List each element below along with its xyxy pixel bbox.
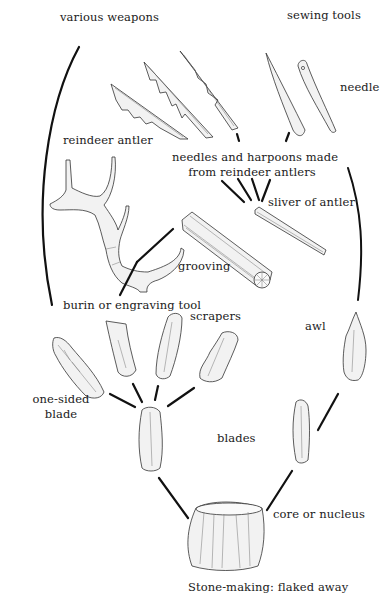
needles-fan-connectors: [222, 179, 270, 202]
core-right-connector: [267, 471, 292, 510]
sewing-connector: [286, 133, 289, 141]
scraper-1-icon: [156, 313, 182, 378]
reindeer-antler-icon: [50, 157, 184, 292]
awl-icon: [343, 312, 366, 381]
right-blade-icon: [293, 400, 310, 463]
barbed-harpoon-icon: [144, 62, 213, 138]
one-sided-blade-icon: [53, 337, 104, 398]
central-blade-icon: [139, 407, 162, 471]
right-arc-connector: [348, 168, 361, 300]
weapons-connector: [237, 134, 239, 141]
label-one-sided-line2: blade: [28, 407, 94, 421]
label-sliver-of-antler: sliver of antler: [268, 195, 355, 209]
label-awl: awl: [305, 319, 326, 333]
label-needle: needle: [340, 80, 379, 94]
scraper-2-icon: [200, 332, 238, 382]
left-arc-connector: [43, 47, 79, 305]
harpoon-icon: [111, 84, 188, 139]
burin-to-grooving-connector: [137, 229, 173, 262]
burin-icon: [106, 321, 136, 376]
label-various-weapons: various weapons: [60, 10, 159, 24]
blade-fan-connectors: [110, 384, 194, 407]
label-sewing-tools: sewing tools: [287, 8, 361, 22]
label-needles-harpoons-line1: needles and harpoons made: [172, 150, 332, 164]
label-burin: burin or engraving tool: [63, 298, 201, 312]
grooved-antler-icon: [182, 212, 272, 288]
sliver-of-antler-icon: [255, 207, 326, 255]
label-core-or-nucleus: core or nucleus: [273, 507, 365, 521]
label-grooving: grooving: [178, 259, 230, 273]
label-blades: blades: [217, 431, 256, 445]
label-scrapers: scrapers: [190, 309, 241, 323]
label-needles-harpoons-line2: from reindeer antlers: [172, 165, 332, 179]
awl-connector: [318, 394, 338, 430]
needle-icon: [298, 60, 336, 132]
core-left-connector: [159, 478, 188, 518]
label-bottom-caption: Stone-making: flaked away: [188, 580, 348, 594]
label-one-sided-line1: one-sided: [28, 392, 94, 406]
core-nucleus-icon: [188, 502, 264, 571]
label-reindeer-antler: reindeer antler: [63, 133, 153, 147]
